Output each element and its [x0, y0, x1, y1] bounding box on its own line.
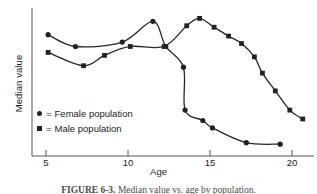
data-point: [120, 39, 125, 44]
x-axis-title: Age: [0, 166, 317, 177]
data-point: [197, 16, 202, 21]
legend-item-male: = Male population: [34, 121, 133, 136]
data-point: [300, 117, 305, 122]
data-point: [73, 44, 78, 49]
data-point: [210, 125, 215, 130]
data-point: [181, 65, 186, 70]
data-point: [200, 118, 205, 123]
legend-equals-female: =: [46, 108, 52, 119]
square-marker-icon: [34, 126, 44, 131]
legend-label-female: Female population: [55, 108, 133, 119]
chart-plot-area: Median value 5 10 15 20 Age = Female pop…: [0, 0, 317, 172]
x-axis-ticks: [46, 150, 292, 156]
data-point: [162, 44, 167, 49]
data-point: [226, 34, 231, 39]
data-point: [278, 142, 283, 147]
data-point: [46, 32, 51, 37]
y-axis-title: Median value: [13, 24, 24, 144]
legend-item-female: = Female population: [34, 106, 133, 121]
chart-svg: [0, 0, 317, 172]
legend-equals-male: =: [46, 123, 52, 134]
data-point: [273, 88, 278, 93]
figure-caption-label: FIGURE 6-3.: [61, 185, 115, 194]
data-point: [46, 50, 51, 55]
series-line: [48, 18, 303, 119]
chart-legend: = Female population = Male population: [34, 106, 133, 136]
data-point: [252, 54, 257, 59]
data-point: [287, 108, 292, 113]
data-point: [212, 25, 217, 30]
data-point: [182, 108, 187, 113]
figure-container: Median value 5 10 15 20 Age = Female pop…: [0, 0, 317, 194]
data-point: [239, 41, 244, 46]
legend-label-male: Male population: [55, 123, 122, 134]
data-point: [260, 71, 265, 76]
circle-marker-icon: [34, 111, 44, 116]
data-point: [244, 140, 249, 145]
figure-caption: FIGURE 6-3. Median value vs. age by popu…: [0, 185, 317, 194]
figure-caption-body: Median value vs. age by population.: [118, 185, 256, 194]
data-point: [128, 44, 133, 49]
data-point: [102, 53, 107, 58]
data-point: [150, 19, 155, 24]
data-point: [184, 23, 189, 28]
data-point: [81, 63, 86, 68]
